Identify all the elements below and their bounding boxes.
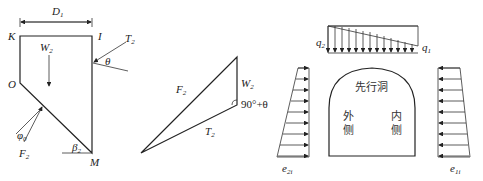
triangle-T-label: T2	[205, 125, 215, 139]
q1-label: q1	[422, 41, 431, 55]
angle-label: 90°+θ	[241, 98, 268, 110]
dimension-label: D1	[51, 5, 63, 19]
e1-label: e1i	[450, 162, 460, 176]
force-triangle: F2 W2 T2 90°+θ	[141, 57, 268, 153]
e2-label: e2i	[282, 162, 292, 176]
inner-side-1: 内	[391, 109, 402, 123]
tension-label: T2	[125, 32, 135, 46]
point-O: O	[8, 78, 16, 90]
inner-side-2: 侧	[391, 124, 402, 137]
force-arrow	[24, 107, 42, 142]
q2-label: q2	[316, 36, 326, 50]
phi-label: φ0	[17, 129, 27, 143]
triangle-F-label: F2	[175, 83, 187, 97]
theta-label: θ	[105, 55, 111, 67]
tunnel-label: 先行洞	[355, 81, 388, 94]
weight-label: W2	[40, 41, 53, 55]
tunnel-load-figure: q2 q1 e2i 先行洞 外 侧 内 侧	[277, 26, 470, 176]
triangle-W-label: W2	[241, 77, 254, 91]
force-label: F2	[18, 147, 30, 161]
outer-side-1: 外	[343, 110, 354, 123]
wedge-body	[20, 36, 92, 153]
outer-side-2: 侧	[343, 124, 354, 137]
beta-label: β2	[71, 141, 81, 155]
wedge-figure: D1 K I O M W2 T2 θ φ0 F2 β2	[7, 5, 135, 168]
right-lateral-load	[438, 68, 470, 157]
diagram-canvas: D1 K I O M W2 T2 θ φ0 F2 β2 F2 W2 T2 90°…	[0, 0, 483, 181]
vertical-load-arrows	[328, 26, 418, 52]
point-M: M	[89, 156, 100, 168]
left-lateral-load	[277, 68, 309, 157]
point-K: K	[7, 30, 16, 42]
point-I: I	[97, 30, 103, 42]
